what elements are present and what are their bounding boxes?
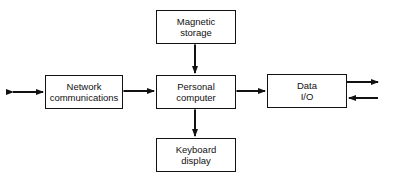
node-label: computer (176, 92, 216, 103)
node-label: Data (297, 80, 317, 91)
node-label: Network (67, 81, 102, 92)
node-label: I/O (301, 91, 314, 102)
node-magnetic-storage: Magnetic storage (156, 10, 236, 44)
node-data-io: Data I/O (267, 74, 347, 108)
node-label: Magnetic (177, 16, 216, 27)
node-label: Keyboard (176, 144, 217, 155)
node-personal-computer: Personal computer (156, 75, 236, 109)
node-label: storage (180, 27, 212, 38)
node-label: Personal (177, 81, 215, 92)
node-label: communications (50, 92, 119, 103)
node-network-communications: Network communications (45, 75, 123, 109)
node-keyboard-display: Keyboard display (156, 138, 236, 172)
node-label: display (181, 155, 211, 166)
